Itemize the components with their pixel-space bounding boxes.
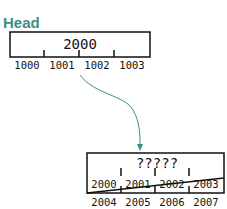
top-slot-3: 1003 [119,59,144,71]
memory-diagram: 2000 1000 1001 1002 1003 ????? 2000 2001… [0,0,227,209]
bottom-block-value: ????? [136,155,178,171]
top-block: 2000 1000 1001 1002 1003 [10,32,150,71]
top-block-value: 2000 [63,36,97,52]
top-slot-1: 1001 [49,59,74,71]
bottom-lower-slot-3: 2007 [193,196,218,208]
bottom-upper-slot-0: 2000 [91,178,116,190]
top-slot-2: 1002 [84,59,109,71]
bottom-block: ????? 2000 2001 2002 2003 2004 2005 2006… [87,153,224,208]
top-slot-0: 1000 [14,59,39,71]
bottom-lower-slot-0: 2004 [91,196,116,208]
bottom-lower-slot-2: 2006 [159,196,184,208]
bottom-lower-slot-1: 2005 [125,196,150,208]
pointer-arrow [80,75,143,151]
